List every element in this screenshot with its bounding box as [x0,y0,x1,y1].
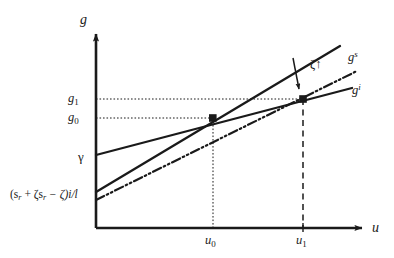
y-tick-g0-sub: 0 [74,116,79,126]
x-tick-u1: u1 [296,234,307,249]
y-tick-g1-sub: 1 [74,97,79,107]
curve-label-gi-sup: i [358,82,361,92]
y-axis-label: g [80,13,87,27]
axis-group [96,34,362,228]
saving-intercept-tail: − ζ)i/l [46,188,78,200]
x-tick-u0: u0 [205,234,216,249]
diagram-canvas [0,0,394,258]
saving-intercept-mid: + ζs [22,188,43,200]
curve-gi-shifted [96,46,340,192]
guide-line-group [96,99,303,228]
figure-container: g u g1 g0 u0 u1 γ (sr + ζsr − ζ)i/l gs g… [0,0,394,258]
x-tick-u0-sub: 0 [211,239,216,249]
curve-gs-saving [96,71,357,200]
gamma-intercept-label: γ [78,150,84,163]
x-tick-u1-sub: 1 [302,239,307,249]
curve-label-gs-sup: s [354,49,358,59]
equilibrium-point-1 [299,95,307,103]
x-axis-label: u [372,221,379,235]
equilibrium-point-0 [209,114,217,122]
y-tick-g0: g0 [68,111,79,126]
y-tick-g1: g1 [68,92,79,107]
zeta-increase-annotation: ζ↑ [310,58,321,71]
saving-intercept-label: (sr + ζsr − ζ)i/l [10,189,78,203]
curve-label-gi: gi [352,83,361,96]
curve-label-gs: gs [348,50,358,63]
curve-gi-initial [96,88,352,155]
